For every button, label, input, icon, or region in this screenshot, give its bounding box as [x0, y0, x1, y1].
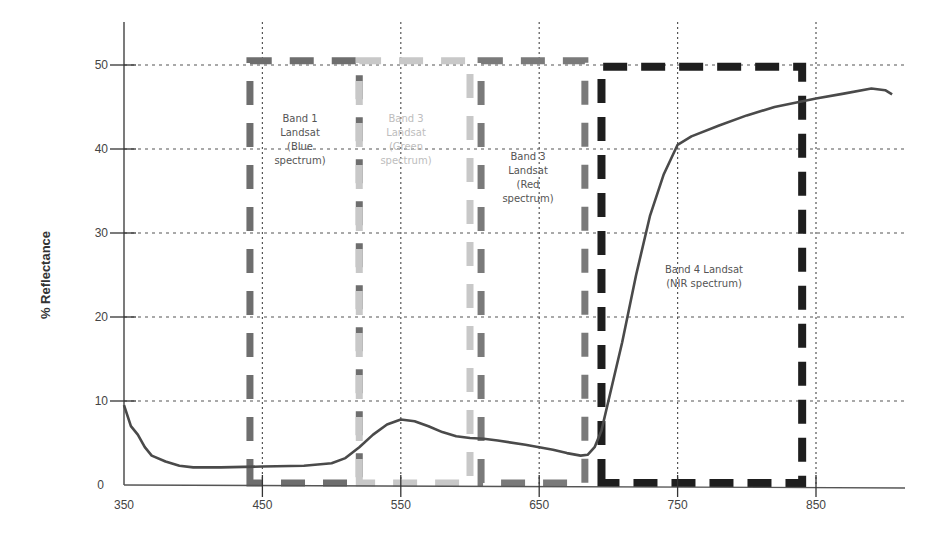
x-tick-label: 750	[668, 498, 688, 512]
y-tick-label: 20	[95, 310, 109, 324]
y-tick-label: 0	[97, 478, 104, 492]
x-tick-label: 650	[529, 498, 549, 512]
y-tick-label: 50	[95, 58, 109, 72]
grid-lines	[124, 22, 905, 485]
reflectance-chart: Band 1Landsat(Bluespectrum)Band 3Landsat…	[0, 0, 933, 543]
band-label: Band 3Landsat(Greenspectrum)	[380, 113, 431, 166]
y-tick-label: 30	[95, 226, 109, 240]
x-tick-label: 450	[252, 498, 272, 512]
band-box	[481, 61, 585, 483]
x-tick-label: 550	[391, 498, 411, 512]
axes	[124, 22, 905, 488]
x-tick-label: 850	[806, 498, 826, 512]
band-label: Band 3Landsat(Redspectrum)	[502, 151, 553, 204]
x-tick-label: 350	[114, 498, 134, 512]
y-tick-label: 40	[95, 142, 109, 156]
band-label: Band 4 Landsat(NIR spectrum)	[665, 264, 743, 289]
reflectance-curve	[124, 89, 892, 468]
band-box	[250, 61, 359, 483]
band-labels: Band 1Landsat(Bluespectrum)Band 3Landsat…	[274, 113, 743, 289]
y-tick-label: 10	[95, 394, 109, 408]
band-box	[359, 61, 470, 483]
y-axis-label: % Reflectance	[38, 231, 53, 319]
y-axis-ticks: 01020304050	[95, 58, 136, 492]
band-label: Band 1Landsat(Bluespectrum)	[274, 113, 325, 166]
